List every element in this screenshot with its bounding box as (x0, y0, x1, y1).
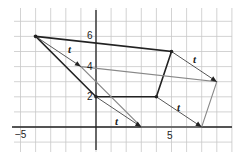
x-label-5: 5 (167, 130, 173, 141)
vertex-dot (94, 95, 98, 99)
vertex-dot (170, 50, 174, 54)
translation-label-2: t (193, 53, 197, 65)
y-label-6: 6 (87, 30, 93, 41)
translation-label-4: t (115, 115, 119, 127)
y-label-2: 2 (87, 91, 93, 102)
translation-label-3: t (177, 101, 181, 113)
arrowhead-icon (135, 122, 141, 127)
translation-label-1: t (68, 43, 72, 55)
arrowhead-icon (195, 122, 201, 127)
arrowhead-icon (75, 61, 81, 66)
y-label-4: 4 (87, 61, 93, 72)
vertex-dot (155, 95, 159, 99)
coordinate-plane: −5 5 2 4 6 t t t t (0, 0, 243, 158)
x-label-neg5: −5 (15, 129, 27, 140)
vertex-dot (34, 35, 38, 39)
